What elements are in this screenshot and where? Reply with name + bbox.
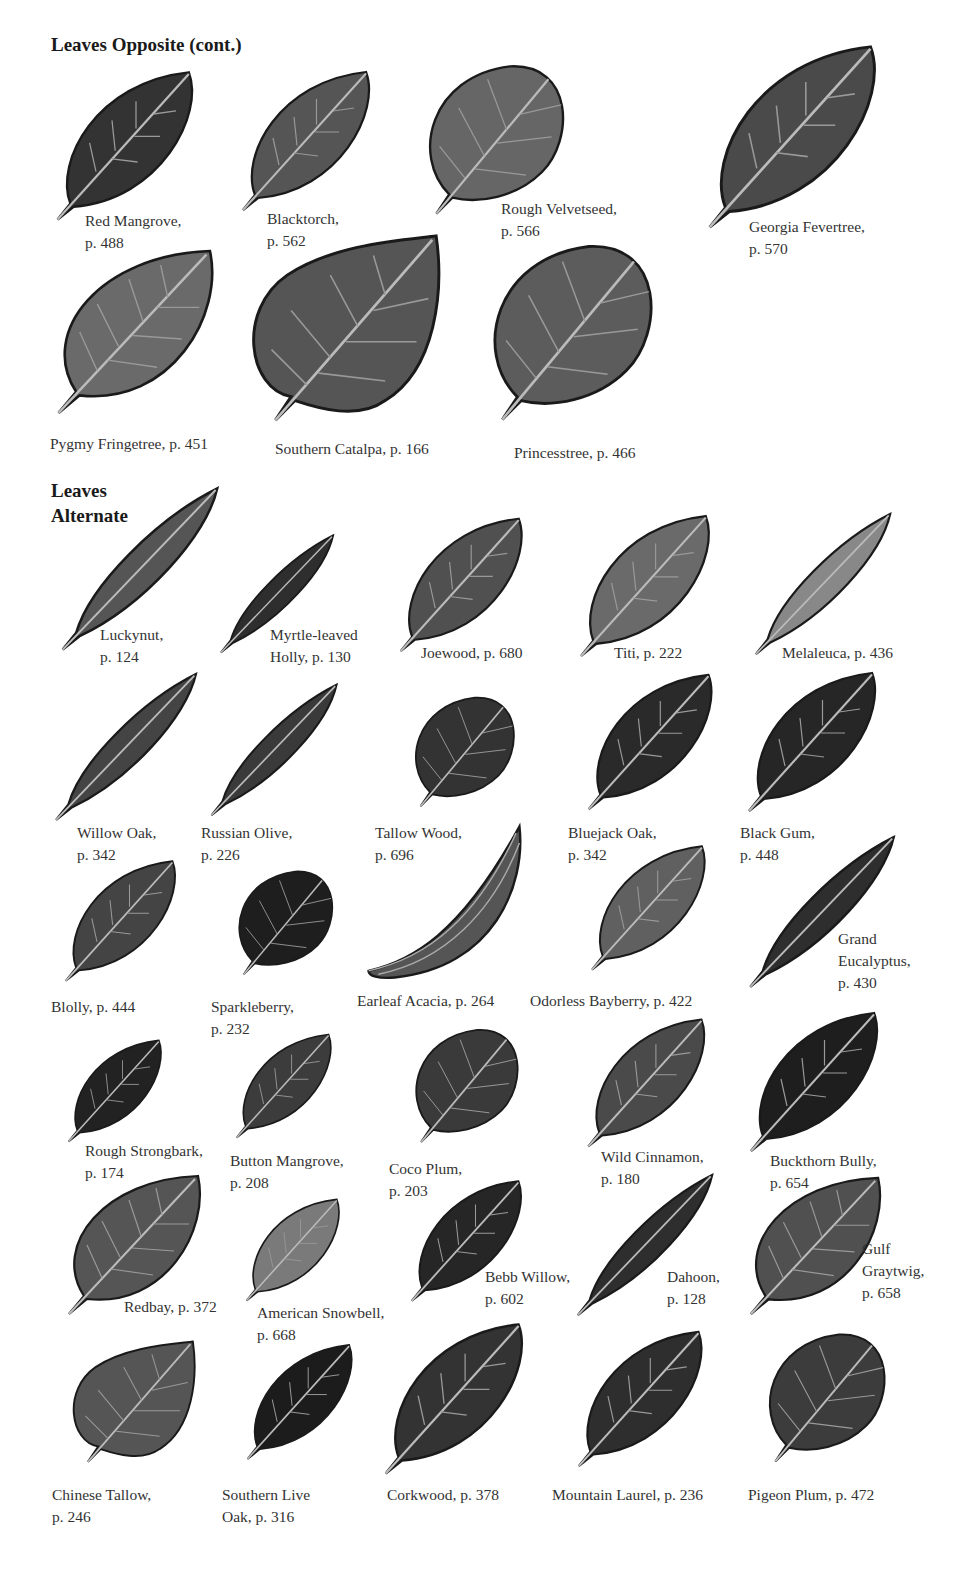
leaf-label-southern-live-oak: Southern Live Oak, p. 316 [222,1484,310,1528]
leaf-label-princesstree: Princesstree, p. 466 [514,442,635,464]
leaf-illustration-willow-oak [50,664,202,830]
leaf-illustration-southern-catalpa [248,232,444,428]
leaf-label-southern-catalpa: Southern Catalpa, p. 166 [275,438,429,460]
leaf-label-titi: Titi, p. 222 [614,642,682,664]
leaf-illustration-titi [566,510,730,662]
leaf-illustration-red-mangrove [48,58,208,234]
leaf-label-myrtle-leaved-holly: Myrtle-leaved Holly, p. 130 [270,624,358,668]
leaf-illustration-rough-velvetseed [410,60,578,220]
leaf-illustration-southern-live-oak [240,1328,364,1476]
leaf-illustration-georgia-fevertree [698,28,894,246]
leaf-illustration-melaleuca [750,510,896,658]
leaf-label-georgia-fevertree: Georgia Fevertree, p. 570 [749,216,865,260]
leaf-illustration-chinese-tallow [70,1330,198,1476]
leaf-illustration-princesstree [476,228,664,438]
leaf-illustration-button-mangrove [230,1024,342,1148]
leaf-illustration-mountain-laurel [570,1320,716,1478]
leaf-illustration-russian-olive [206,678,342,822]
leaf-label-pigeon-plum: Pigeon Plum, p. 472 [748,1484,874,1506]
leaf-illustration-tallow-wood [404,690,522,814]
leaf-label-corkwood: Corkwood, p. 378 [387,1484,499,1506]
leaf-illustration-earleaf-acacia [358,820,530,984]
leaf-illustration-pygmy-fringetree [48,236,224,428]
leaf-label-bebb-willow: Bebb Willow, p. 602 [485,1266,570,1310]
leaf-illustration-rough-strongbark [62,1030,172,1152]
leaf-illustration-pigeon-plum [756,1322,894,1474]
leaf-illustration-odorless-bayberry [584,832,718,984]
leaf-illustration-wild-cinnamon [580,1010,718,1156]
leaf-label-luckynut: Luckynut, p. 124 [100,624,163,668]
leaf-illustration-american-snowbell [240,1180,350,1320]
leaf-illustration-coco-plum [404,1018,526,1154]
leaf-label-redbay: Redbay, p. 372 [124,1296,217,1318]
leaf-illustration-buckthorn-bully [742,1000,892,1164]
leaf-illustration-sparkleberry [228,858,340,988]
leaf-label-odorless-bayberry: Odorless Bayberry, p. 422 [530,990,692,1012]
leaf-illustration-blacktorch [234,60,384,222]
leaf-label-melaleuca: Melaleuca, p. 436 [782,642,893,664]
leaf-label-earleaf-acacia: Earleaf Acacia, p. 264 [357,990,494,1012]
leaf-label-pygmy-fringetree: Pygmy Fringetree, p. 451 [50,433,208,455]
leaf-label-chinese-tallow: Chinese Tallow, p. 246 [52,1484,151,1528]
leaf-illustration-joewood [392,510,536,660]
leaf-label-mountain-laurel: Mountain Laurel, p. 236 [552,1484,703,1506]
leaf-label-grand-eucalyptus: Grand Eucalyptus, p. 430 [838,928,911,994]
leaf-illustration-corkwood [364,1318,550,1480]
section-title-opposite: Leaves Opposite (cont.) [51,32,242,57]
leaf-illustration-bluejack-oak [580,668,726,816]
leaf-illustration-black-gum [740,666,890,818]
leaf-label-joewood: Joewood, p. 680 [421,642,523,664]
leaf-label-blolly: Blolly, p. 444 [51,996,135,1018]
leaf-label-dahoon: Dahoon, p. 128 [667,1266,720,1310]
leaf-illustration-blolly [58,850,188,992]
leaf-label-gulf-graytwig: Gulf Graytwig, p. 658 [862,1238,924,1304]
